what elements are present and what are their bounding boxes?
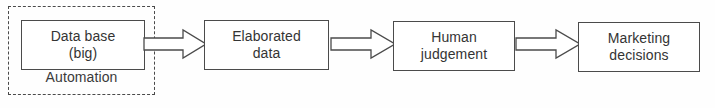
block-arrow-right-icon	[516, 30, 580, 58]
block-arrow-right-icon	[331, 30, 395, 58]
node-database-label: Data base (big)	[47, 28, 120, 62]
node-human-judgement-label: Human judgement	[417, 29, 491, 63]
connector-elaborated-to-human	[330, 28, 396, 60]
connector-database-to-elaborated	[143, 28, 207, 60]
node-marketing-decisions-label: Marketing decisions	[604, 30, 674, 64]
block-arrow-right-icon	[144, 30, 206, 58]
connector-human-to-marketing	[515, 28, 581, 60]
node-database[interactable]: Data base (big)	[21, 20, 145, 70]
flowchart-canvas: Data base (big) Automation Elaborated da…	[0, 0, 715, 108]
node-marketing-decisions[interactable]: Marketing decisions	[578, 22, 700, 72]
node-elaborated-data-label: Elaborated data	[228, 28, 305, 62]
automation-group-label: Automation	[8, 68, 155, 86]
node-human-judgement[interactable]: Human judgement	[393, 21, 515, 71]
node-elaborated-data[interactable]: Elaborated data	[204, 20, 329, 70]
